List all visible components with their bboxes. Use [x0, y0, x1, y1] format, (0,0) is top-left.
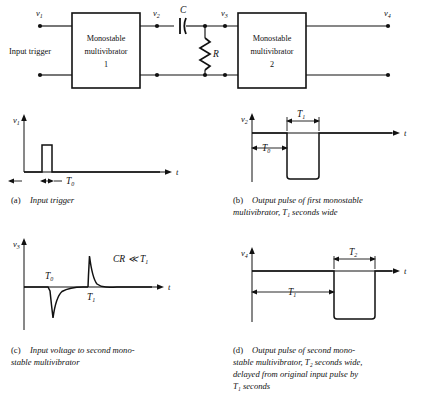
panel-d-caption-tag: (d) — [233, 345, 243, 355]
panel-b-y-label: v2 — [241, 114, 248, 125]
node-dot-v2-bottom — [155, 73, 159, 77]
panel-a-origin-arrow — [8, 179, 14, 184]
panel-a-waveform — [24, 145, 160, 172]
panel-b-x-label: t — [404, 128, 407, 138]
figure-monostable-delay-circuit: v1 Input trigger Monostable multivibrato… — [0, 0, 427, 401]
capacitor-plate-right — [184, 18, 186, 34]
panel-a-dim-arrow-right — [48, 179, 54, 184]
panel-c-caption-line1: Input voltage to second mono- — [29, 345, 135, 355]
panel-c-y-label: v3 — [13, 239, 20, 250]
panel-a-y-arrow — [21, 114, 27, 121]
panel-a-x-label: t — [176, 167, 179, 177]
panel-c-waveform-negative-spike — [24, 287, 88, 318]
block2-line1: Monostable — [253, 34, 292, 43]
panel-d-x-label: t — [404, 266, 407, 276]
panel-b-dim-label-T1: T1 — [297, 109, 305, 120]
panel-b-waveform — [252, 133, 392, 179]
panel-c-x-arrow — [157, 284, 164, 290]
block2-line3: 2 — [270, 60, 274, 69]
capacitor-label: C — [180, 5, 187, 15]
panel-c-dim-label-T0: T0 — [45, 271, 53, 282]
node-dot-v2-top — [155, 24, 159, 28]
panel-a-dim-arrow-left — [40, 179, 46, 184]
panel-d-y-label: v4 — [241, 248, 248, 259]
panel-b: v2 t T1 T0 (b) Output pulse of first mon… — [233, 109, 407, 217]
panel-d-y-arrow — [249, 247, 255, 254]
node-label-v1: v1 — [36, 8, 43, 19]
panel-c-x-label: t — [168, 282, 171, 292]
block1-line1: Monostable — [87, 34, 126, 43]
panel-c-dim-label-T1: T1 — [87, 292, 95, 303]
panel-d-dim-label-T2: T2 — [349, 247, 357, 258]
node-dot-v4-bottom — [386, 73, 390, 77]
resistor-label: R — [212, 49, 219, 59]
panel-d-caption-line2: stable multivibrator, T₂ seconds wide, — [233, 357, 363, 367]
block1-line2: multivibrator — [84, 47, 127, 56]
panel-d-dim-label-T1: T1 — [288, 287, 296, 298]
panel-b-y-arrow — [249, 113, 255, 120]
input-trigger-label: Input trigger — [9, 47, 51, 56]
panel-a-y-label: v1 — [13, 115, 20, 126]
panel-a-caption-line1: Input trigger — [29, 195, 75, 205]
resistor-zigzag — [200, 38, 210, 70]
panel-a-x-arrow — [165, 169, 172, 175]
node-label-v2: v2 — [153, 8, 160, 19]
panel-b-x-arrow — [393, 130, 400, 136]
panel-d-waveform — [252, 271, 392, 319]
panel-c-caption-line2: stable multivibrator — [11, 357, 80, 367]
block2-line2: multivibrator — [250, 47, 293, 56]
panel-a: v1 t T0 (a) Input trigger — [8, 114, 179, 205]
panel-d-x-arrow — [393, 268, 400, 274]
panel-d-caption-line4: T₁ seconds — [233, 381, 271, 391]
panel-c-caption-tag: (c) — [11, 345, 21, 355]
panel-c: v3 t T0 T1 CR ≪ T1 (c) Input voltage to … — [11, 238, 171, 367]
block1-line3: 1 — [104, 60, 108, 69]
circuit-diagram: v1 Input trigger Monostable multivibrato… — [9, 5, 391, 88]
node-dot-v4-top — [386, 24, 390, 28]
node-dot-v1-top — [38, 24, 42, 28]
node-dot-v1-bottom — [38, 73, 42, 77]
node-label-v3: v3 — [221, 8, 228, 19]
panel-c-y-arrow — [21, 238, 27, 245]
panel-b-caption-tag: (b) — [233, 195, 243, 205]
panel-d: v4 t T2 T1 (d) Output pulse of second mo… — [233, 247, 407, 391]
node-label-v4: v4 — [384, 8, 391, 19]
panel-a-dim-label-T0: T0 — [66, 176, 74, 187]
panel-c-annotation-cr-ll-t1: CR ≪ T1 — [113, 254, 148, 265]
panel-b-caption-line2: multivibrator, T₁ seconds wide — [233, 207, 338, 217]
panel-b-dim-label-T0: T0 — [262, 143, 270, 154]
node-dot-v3-top — [223, 24, 227, 28]
panel-a-caption-tag: (a) — [11, 195, 21, 205]
panel-d-caption-line1: Output pulse of second mono- — [252, 345, 355, 355]
node-dot-rc-bottom — [203, 73, 207, 77]
panel-b-caption-line1: Output pulse of first monostable — [252, 195, 363, 205]
node-dot-v3-bottom — [223, 73, 227, 77]
panel-d-caption-line3: delayed from original input pulse by — [233, 369, 358, 379]
